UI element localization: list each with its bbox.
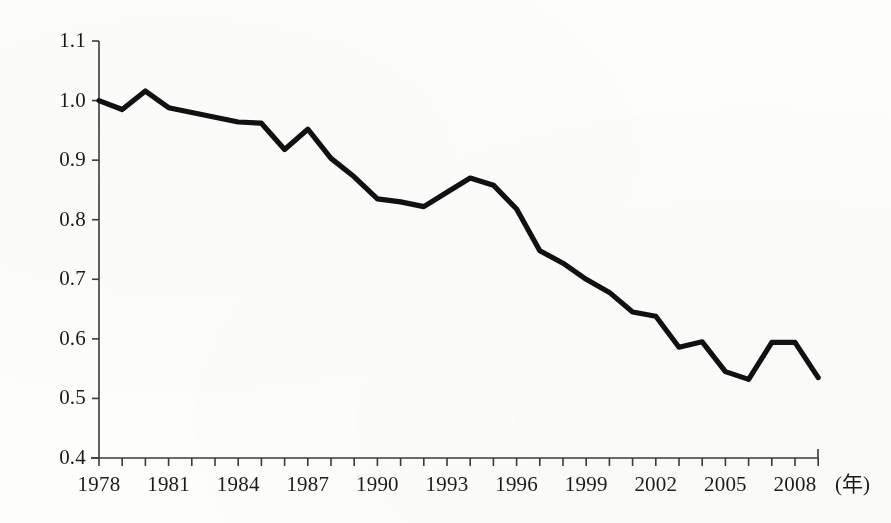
- x-axis-tick-label: 1999: [551, 474, 621, 495]
- y-axis-tick-label: 0.4: [34, 447, 86, 468]
- chart-axes: [91, 41, 818, 466]
- y-axis-tick-label: 0.8: [34, 209, 86, 230]
- y-axis-tick-label: 0.5: [34, 387, 86, 408]
- x-axis-tick-label: 1978: [64, 474, 134, 495]
- y-axis-tick-label: 1.1: [34, 30, 86, 51]
- x-axis-tick-label: 2005: [690, 474, 760, 495]
- x-axis-tick-label: 1990: [342, 474, 412, 495]
- y-axis-tick-label: 0.7: [34, 268, 86, 289]
- x-axis-tick-label: 2002: [621, 474, 691, 495]
- y-axis-tick-label: 0.6: [34, 328, 86, 349]
- data-line: [99, 91, 818, 379]
- x-axis-tick-label: 1984: [203, 474, 273, 495]
- chart-figure: 1.11.00.90.80.70.60.50.4 197819811984198…: [0, 0, 891, 523]
- x-axis-tick-label: 1996: [482, 474, 552, 495]
- x-axis-tick-label: 1993: [412, 474, 482, 495]
- chart-series: [99, 91, 818, 379]
- x-axis-tick-label: 1987: [273, 474, 343, 495]
- x-axis-tick-label: 1981: [134, 474, 204, 495]
- line-chart-plot: [0, 0, 891, 523]
- y-axis-tick-label: 1.0: [34, 90, 86, 111]
- y-axis-tick-label: 0.9: [34, 149, 86, 170]
- x-axis-tick-label: 2008: [760, 474, 830, 495]
- x-axis-unit-label: (年): [835, 474, 870, 495]
